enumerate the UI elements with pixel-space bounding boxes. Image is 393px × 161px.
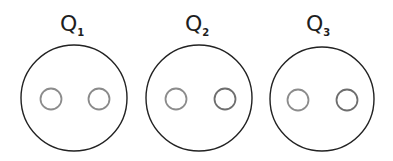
diagram-canvas: Q1 Q2 Q3 — [0, 0, 393, 161]
panel-q1: Q1 — [21, 11, 127, 151]
inner-circle-right — [215, 89, 236, 110]
label-main: Q — [185, 11, 202, 36]
label-main: Q — [60, 11, 77, 36]
panel-label: Q3 — [306, 11, 330, 38]
outer-circle — [270, 47, 374, 151]
panel-label: Q2 — [185, 11, 209, 38]
outer-circle — [21, 45, 127, 151]
inner-circle-right — [337, 90, 358, 111]
inner-circle-left — [166, 89, 187, 110]
label-subscript: 1 — [77, 27, 84, 38]
inner-circle-right — [89, 89, 110, 110]
label-main: Q — [306, 11, 323, 36]
panel-q3: Q3 — [270, 11, 374, 151]
panel-label: Q1 — [60, 11, 84, 38]
label-subscript: 2 — [202, 27, 209, 38]
panel-q2: Q2 — [146, 11, 252, 151]
label-subscript: 3 — [323, 27, 330, 38]
inner-circle-left — [41, 89, 62, 110]
inner-circle-left — [288, 90, 309, 111]
